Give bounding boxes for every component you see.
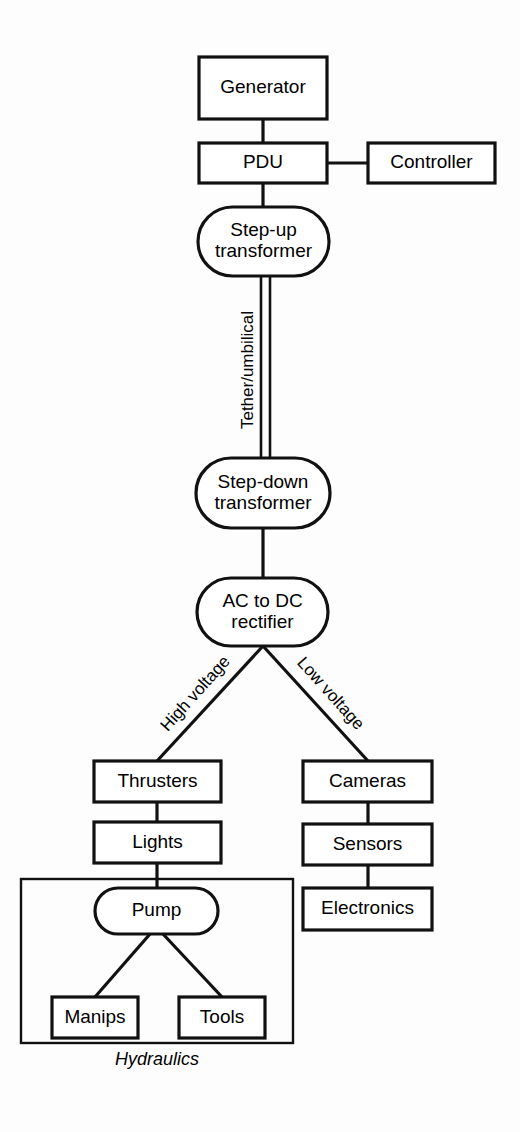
node-label-thrusters: Thrusters (117, 770, 197, 791)
node-pump[interactable]: Pump (95, 888, 218, 934)
node-label-generator: Generator (220, 76, 306, 97)
node-pdu[interactable]: PDU (199, 143, 327, 183)
node-sensors[interactable]: Sensors (303, 824, 432, 865)
node-label-pump: Pump (132, 899, 182, 920)
node-thrusters[interactable]: Thrusters (94, 761, 221, 802)
node-tools[interactable]: Tools (179, 997, 265, 1038)
node-stepdown[interactable]: Step-downtransformer (196, 458, 330, 528)
diagram-canvas: Hydraulics Tether/umbilical GeneratorPDU… (0, 0, 520, 1132)
block-diagram: Hydraulics Tether/umbilical GeneratorPDU… (0, 0, 520, 1132)
node-stepup[interactable]: Step-uptransformer (198, 207, 329, 276)
node-electronics[interactable]: Electronics (303, 888, 432, 930)
node-label-sensors: Sensors (333, 833, 403, 854)
tether-umbilical: Tether/umbilical (238, 276, 270, 458)
connector-pump-manips (95, 934, 150, 997)
node-label-pdu: PDU (243, 151, 283, 172)
node-label-electronics: Electronics (321, 897, 414, 918)
tether-label: Tether/umbilical (238, 311, 257, 429)
node-manips[interactable]: Manips (52, 997, 138, 1038)
node-label-cameras: Cameras (329, 770, 406, 791)
node-controller[interactable]: Controller (368, 143, 495, 183)
node-label-stepdown: Step-downtransformer (214, 471, 312, 513)
edge-labels-layer: High voltageLow voltage (157, 652, 369, 735)
group-label-hydraulics: Hydraulics (115, 1049, 199, 1069)
nodes-layer: GeneratorPDUControllerStep-uptransformer… (52, 57, 495, 1038)
node-lights[interactable]: Lights (94, 822, 221, 863)
node-cameras[interactable]: Cameras (303, 761, 432, 802)
connector-pump-tools (163, 934, 222, 997)
node-label-lights: Lights (132, 831, 183, 852)
edge-label-high-voltage: High voltage (157, 652, 234, 735)
tether-umbilical-layer: Tether/umbilical (238, 276, 270, 458)
node-rectifier[interactable]: AC to DCrectifier (197, 578, 328, 646)
node-generator[interactable]: Generator (199, 57, 327, 119)
node-label-tools: Tools (200, 1006, 244, 1027)
node-label-rectifier: AC to DCrectifier (222, 590, 302, 632)
node-label-controller: Controller (390, 151, 473, 172)
node-label-manips: Manips (64, 1006, 125, 1027)
